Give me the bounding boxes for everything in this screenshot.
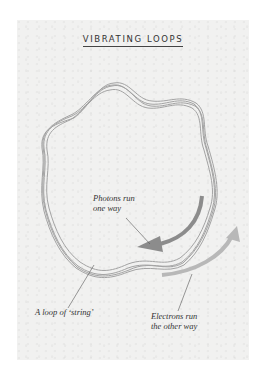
photons-leader	[126, 218, 150, 244]
electrons-label: Electrons run the other way	[151, 311, 197, 331]
vibrating-loop-diagram	[0, 0, 266, 377]
loop-label: A loop of ‘string’	[35, 307, 94, 317]
electrons-arrow	[162, 226, 240, 275]
photons-label: Photons run one way	[93, 193, 135, 213]
photons-arrow	[137, 196, 202, 252]
electrons-leader	[178, 274, 192, 311]
string-loop	[42, 83, 217, 278]
